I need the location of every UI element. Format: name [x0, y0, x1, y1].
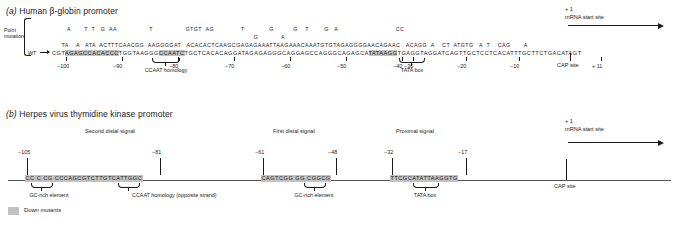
tata-brace-stem-b: [425, 187, 426, 191]
panel-b-title-text: Herpes virus thymidine kinase promoter: [19, 109, 173, 119]
coord-tick-a-5: [346, 57, 347, 61]
highlight-gc-rich-upstream: AGAGCCACACCC: [65, 50, 119, 56]
cap-site-tick-b: [566, 159, 567, 180]
point-mutation-label: Point mutation: [4, 27, 24, 40]
coord-label-a-0: −100: [57, 63, 69, 69]
coord-tick-b-3: [263, 158, 264, 175]
tata-brace-stem-a: [411, 62, 412, 66]
coord-tick-a-0: [66, 57, 67, 61]
coord-label-b-minus105: −105: [18, 149, 30, 155]
coord-tick-b-6: [466, 158, 467, 175]
coord-tick-b-5: [392, 158, 393, 175]
ccaat-brace-stem-a: [165, 62, 166, 66]
coord-label-b-minus81: −81: [152, 149, 161, 155]
plus-one-label-a: + 1: [565, 6, 573, 12]
cap-site-tick-a: [570, 53, 571, 61]
coord-label-b-minus61: −61: [255, 149, 264, 155]
coord-label-a-9: −10: [510, 63, 519, 69]
gc-rich-brace-b1: [31, 183, 53, 188]
highlight-ccaat-homology: CCAATC: [159, 50, 185, 56]
mrna-start-arrow-line-b: [568, 142, 660, 143]
cap-site-label-a: CAP site: [557, 62, 579, 68]
mrna-start-arrow-head-a: [658, 23, 664, 29]
coord-label-a-10: + 11: [592, 63, 602, 69]
coord-label-b-minus17: −17: [458, 149, 467, 155]
legend-swatch-down-mutants: [8, 207, 19, 215]
gc-rich-brace-stem-b2: [314, 187, 315, 191]
coord-tick-b-1: [27, 158, 28, 175]
panel-a-title: (a) Human β-globin promoter: [6, 6, 118, 16]
coord-label-b-minus48: −48: [328, 149, 337, 155]
gc-rich-element-label-b2: GC-rich element: [283, 192, 345, 198]
coord-tick-a-3: [234, 57, 235, 61]
coord-label-b-minus32: −32: [384, 149, 393, 155]
proximal-signal-sequence: TTCGCATATTAAGGTG: [390, 175, 458, 182]
ccaat-brace-stem-b: [128, 187, 129, 191]
wt-sequence: CGTAGAGCCACACCCTGGTAAGGGCCAATCTGCTCACACA…: [52, 50, 582, 56]
mutation-row-upper: A T T G AA T GTGT AG T G G T G A CC: [52, 26, 404, 32]
tata-box-label-b: TATA box: [405, 192, 445, 198]
coord-tick-a-8: [466, 57, 467, 61]
cap-site-label-b: CAP site: [554, 183, 576, 189]
coord-tick-a-9: [519, 57, 520, 61]
coord-label-a-1: −90: [113, 63, 122, 69]
ccaat-brace-b: [118, 183, 140, 188]
highlight-tata-box: TATAAGG: [369, 50, 398, 56]
gc-rich-brace-stem-b1: [41, 187, 42, 191]
gc-rich-element-label-b1: GC-rich element: [18, 192, 80, 198]
coord-tick-a-10: [601, 57, 602, 61]
mrna-start-site-label-a: mRNA start site: [565, 14, 604, 20]
mrna-start-site-label-b: mRNA start site: [565, 126, 604, 132]
second-distal-signal-sequence: CC C CG CCCAGCGTCTTGTCATTGGC: [25, 175, 143, 182]
wt-sequence-segment: CGT: [52, 50, 65, 56]
wt-sequence-segment: TGCTCACACAGGATAGAGAGGGCAGGAGCCAGGGCAGAGC…: [185, 50, 369, 56]
coord-label-a-8: −20: [457, 63, 466, 69]
mutation-row-lower: TA A ATA ACTTTCAACGG AAGGGGAT ACACACTCAA…: [52, 42, 528, 48]
coord-tick-b-4: [336, 158, 337, 175]
tata-box-label-a: TATA box: [392, 67, 432, 73]
coord-label-a-5: −50: [337, 63, 346, 69]
wt-sequence-segment: TGAGGTAGGATCAGTTGCTCCTCACATTTGCTTCTGACAT…: [397, 50, 581, 56]
panel-b-title: (b) Herpes virus thymidine kinase promot…: [6, 109, 173, 119]
coord-label-a-4: −60: [281, 63, 290, 69]
legend-label-down-mutants: Down mutants: [24, 207, 61, 213]
first-distal-signal-label: First distal signal: [273, 128, 315, 134]
ccaat-brace-a: [152, 58, 180, 63]
tata-brace-a: [399, 58, 425, 63]
wt-label: WT: [28, 50, 36, 56]
wt-arrow-icon: [40, 52, 49, 53]
tata-brace-b: [413, 183, 439, 188]
coord-tick-a-4: [290, 57, 291, 61]
coord-label-a-3: −70: [225, 63, 234, 69]
mrna-start-arrow-line-a: [568, 25, 660, 26]
second-distal-signal-label: Second distal signal: [85, 128, 135, 134]
ccaat-homology-label-a: CCAAT homology: [136, 67, 196, 73]
first-distal-signal-sequence: CAGTCGG GG CGGCG: [261, 175, 331, 182]
panel-a-title-text: Human β-globin promoter: [19, 6, 118, 16]
gc-rich-brace-b2: [304, 183, 326, 188]
mutation-row-middle: G A: [52, 34, 285, 40]
wt-sequence-segment: TGGTAAGGG: [119, 50, 159, 56]
mrna-start-arrow-head-b: [658, 140, 664, 146]
plus-one-label-b: + 1: [565, 118, 573, 124]
ccaat-homology-label-b: CCAAT homology (opposite strand): [132, 192, 228, 198]
proximal-signal-label: Proximal signal: [396, 128, 434, 134]
panel-a-label: (a): [6, 6, 17, 16]
panel-b-label: (b): [6, 109, 17, 119]
coord-tick-a-1: [122, 57, 123, 61]
coord-tick-b-2: [160, 158, 161, 175]
